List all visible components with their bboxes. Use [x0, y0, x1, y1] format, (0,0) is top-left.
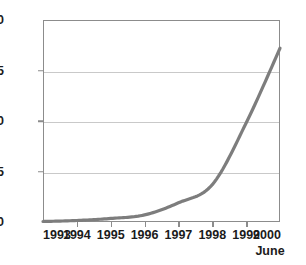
x-tick-mark-1999 — [246, 222, 248, 227]
x-tick-mark-1997 — [178, 222, 180, 227]
x-axis-annotation-june: June — [255, 245, 284, 258]
x-tick-mark-1998 — [212, 222, 214, 227]
x-tick-label-1998: 1998 — [198, 229, 226, 242]
x-tick-label-1997: 1997 — [165, 229, 193, 242]
x-tick-label-1996: 1996 — [131, 229, 159, 242]
x-tick-label-2000: 2000 — [253, 229, 281, 242]
x-tick-label-1994: 1994 — [63, 229, 91, 242]
x-tick-mark-1995 — [111, 222, 113, 227]
chart-figure: 05101520 1993199419951996199719981999200… — [0, 0, 306, 265]
x-tick-mark-1996 — [145, 222, 147, 227]
x-tick-label-1995: 1995 — [97, 229, 125, 242]
x-tick-mark-1994 — [77, 222, 79, 227]
x-axis: 19931994199519961997199819992000June — [0, 0, 306, 265]
